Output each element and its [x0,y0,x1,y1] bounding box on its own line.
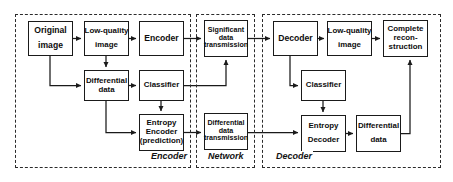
node-entropy-encoder-prediction-line: (prediction) [140,137,183,146]
node-complete-reconstruction: Completerecon-struction [383,20,428,57]
encoder-region-label: Encoder [150,151,188,161]
node-low-quality-image-decoder-line: Low-quality [328,27,372,36]
node-low-quality-image-decoder-line: image [338,41,361,50]
node-decoder-line: Decoder [278,34,312,44]
node-encoder-line: Encoder [144,34,178,44]
network-region-label: Network [207,151,245,161]
node-decoder: Decoder [273,21,318,56]
node-low-quality-image-encoder-line: image [95,41,118,50]
node-entropy-decoder: EntropyDecoder [301,115,346,152]
node-entropy-encoder-prediction: EntropyEncoder(prediction) [139,114,184,151]
node-encoder: Encoder [139,21,184,56]
node-original-image-line: Original [34,26,66,36]
node-low-quality-image-decoder: Low-qualityimage [327,21,372,56]
node-differential-data-encoder: Differentialdata [84,70,129,101]
node-differential-data-transmission: Differentialdatatransmission [204,113,248,150]
node-differential-data-decoder: Differentialdata [356,115,401,152]
node-low-quality-image-encoder: Low-qualityimage [84,21,129,56]
node-classifier-decoder: Classifier [301,70,346,101]
node-original-image: Originalimage [28,21,73,56]
decoder-region-label: Decoder [275,151,313,161]
node-original-image-line: image [38,41,63,51]
node-differential-data-encoder-line: data [98,86,114,95]
node-entropy-decoder-line: Entropy [309,122,339,131]
node-low-quality-image-encoder-line: Low-quality [85,27,129,36]
node-entropy-decoder-line: Decoder [308,136,340,145]
node-complete-reconstruction-line: struction [389,43,423,52]
node-significant-data-transmission-line: transmission [204,42,248,50]
node-classifier-decoder-line: Classifier [306,81,342,90]
node-classifier-encoder: Classifier [139,70,184,101]
block-diagram: EncoderNetworkDecoder OriginalimageLow-q… [0,0,453,182]
node-classifier-encoder-line: Classifier [144,81,180,90]
node-significant-data-transmission: Significantdatatransmission [204,20,248,57]
node-differential-data-decoder-line: Differential [358,122,399,131]
node-differential-data-decoder-line: data [370,136,386,145]
node-differential-data-transmission-line: transmission [204,135,248,143]
